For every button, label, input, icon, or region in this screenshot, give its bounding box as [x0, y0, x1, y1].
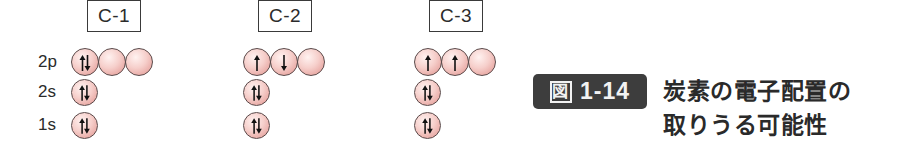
- figure-number: 1-14: [580, 78, 630, 105]
- orbital-label-2p: 2p: [38, 48, 57, 76]
- configuration-c2: C-2: [243, 0, 383, 156]
- spin-pair-arrows-icon: [72, 49, 98, 75]
- orbital-down: [270, 48, 298, 76]
- orbital-empty: [297, 48, 325, 76]
- config-label: C-3: [429, 0, 483, 32]
- spin-up-arrow-icon: [244, 49, 270, 75]
- orbital-empty: [98, 48, 126, 76]
- orbital-empty: [468, 48, 496, 76]
- figure-title-line-1: 炭素の電子配置の: [663, 74, 851, 108]
- orbital-up-down: [71, 112, 98, 139]
- config-label: C-1: [87, 0, 141, 32]
- orbital-row-2s: [243, 78, 269, 106]
- figure-number-badge: 図 1-14: [533, 74, 647, 109]
- orbital-row-2p: [71, 48, 152, 76]
- spin-pair-arrows-icon: [415, 112, 440, 138]
- orbital-up: [441, 48, 469, 76]
- orbital-up: [414, 48, 442, 76]
- orbital-row-2s: [71, 78, 97, 106]
- spin-pair-arrows-icon: [72, 79, 97, 105]
- orbital-up-down: [71, 79, 98, 106]
- spin-up-arrow-icon: [415, 49, 441, 75]
- spin-pair-arrows-icon: [415, 79, 440, 105]
- config-label: C-2: [258, 0, 312, 32]
- spin-up-arrow-icon: [442, 49, 468, 75]
- orbital-up-down: [414, 79, 441, 106]
- orbital-row-2p: [414, 48, 495, 76]
- orbital-row-1s: [414, 111, 440, 139]
- spin-down-arrow-icon: [271, 49, 297, 75]
- orbital-up: [243, 48, 271, 76]
- orbital-row-2p: [243, 48, 324, 76]
- figure-title: 炭素の電子配置の 取りうる可能性: [663, 74, 851, 142]
- orbital-up-down: [243, 79, 270, 106]
- spin-pair-arrows-icon: [244, 112, 269, 138]
- configuration-c1: C-1: [71, 0, 211, 156]
- figure-kanji-icon: 図: [550, 81, 572, 103]
- orbital-up-down: [414, 112, 441, 139]
- spin-pair-arrows-icon: [244, 79, 269, 105]
- orbital-up-down: [71, 48, 99, 76]
- orbital-empty: [125, 48, 153, 76]
- spin-pair-arrows-icon: [72, 112, 97, 138]
- orbital-row-1s: [243, 111, 269, 139]
- orbital-row-2s: [414, 78, 440, 106]
- orbital-row-1s: [71, 111, 97, 139]
- orbital-up-down: [243, 112, 270, 139]
- figure-title-line-2: 取りうる可能性: [663, 108, 851, 142]
- orbital-label-2s: 2s: [38, 78, 56, 106]
- orbital-label-1s: 1s: [38, 111, 56, 139]
